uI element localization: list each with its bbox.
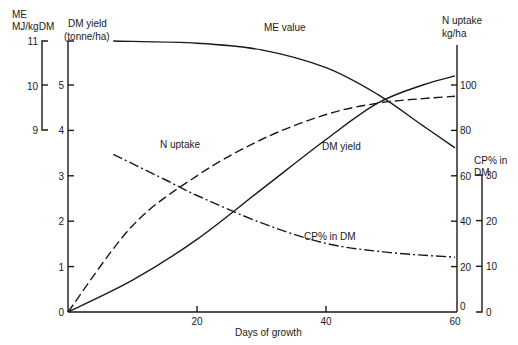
dm-tick-label: 4 (58, 125, 64, 136)
x-tick-label: 40 (320, 316, 332, 327)
dm-axis-label-2: (tonne/ha) (64, 31, 110, 42)
cp-tick-label: 10 (486, 261, 498, 272)
label-n-uptake: N uptake (160, 139, 200, 150)
axes: 012345 204060 020406080100 0102030 91011 (27, 36, 498, 327)
curves (68, 41, 455, 312)
dm-yield-curve (68, 76, 455, 312)
me-tick-label: 11 (28, 36, 39, 47)
x-tick-label: 20 (191, 316, 203, 327)
n-tick-label: 20 (460, 262, 472, 273)
n-tick-label: 100 (460, 80, 477, 91)
cp-axis-label-1: CP% in (474, 155, 507, 166)
n-tick-label: 40 (460, 216, 472, 227)
me-tick-label: 9 (32, 125, 38, 136)
x-tick-label: 60 (449, 316, 461, 327)
dm-ticks: 012345 (58, 80, 74, 318)
dm-tick-label: 2 (58, 216, 64, 227)
dm-tick-label: 5 (58, 80, 64, 91)
cp-tick-label: 20 (486, 216, 498, 227)
me-axis-label-1: ME (12, 9, 27, 20)
cp-in-dm-curve (113, 154, 455, 257)
n-ticks: 020406080100 (451, 80, 477, 312)
x-axis-label: Days of growth (235, 327, 302, 338)
me-value-curve (113, 41, 455, 148)
n-tick-label: 80 (460, 125, 472, 136)
cp-axis-label-2: DM (474, 167, 490, 178)
chart: 012345 204060 020406080100 0102030 91011… (0, 0, 518, 345)
dm-tick-label: 0 (58, 307, 64, 318)
n-axis-label-1: N uptake (442, 15, 482, 26)
n-tick-label: 60 (460, 171, 472, 182)
cp-tick-label: 0 (486, 307, 492, 318)
dm-tick-label: 1 (58, 262, 64, 273)
cp-ticks: 0102030 (476, 170, 498, 318)
me-axis-label-2: MJ/kgDM (12, 21, 54, 32)
label-dm-yield: DM yield (322, 141, 361, 152)
dm-tick-label: 3 (58, 171, 64, 182)
me-tick-label: 10 (27, 81, 39, 92)
x-ticks: 204060 (191, 306, 461, 327)
n-axis-label-2: kg/ha (442, 28, 467, 39)
label-me-value: ME value (264, 22, 306, 33)
label-cp-in-dm: CP% in DM (304, 231, 356, 242)
n-uptake-curve (68, 96, 455, 312)
n-tick-label: 0 (460, 301, 466, 312)
cp-axis (476, 175, 482, 312)
dm-axis-label-1: DM yield (68, 18, 107, 29)
